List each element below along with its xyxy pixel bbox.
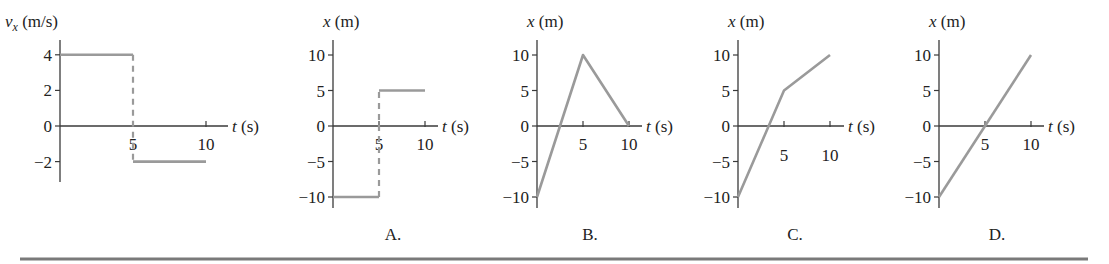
y-axis-label: x (m) [526,12,563,31]
panel-label-b: B. [582,225,598,244]
x-tick-label: 5 [780,146,789,165]
x-tick-label: 10 [621,135,638,154]
y-tick-label: 10 [512,46,529,65]
y-tick-label: 4 [44,46,53,65]
x-tick-label: 10 [198,135,215,154]
y-tick-label: 10 [914,46,931,65]
x-axis-label: t (s) [232,117,259,136]
x-tick-label: 10 [417,135,434,154]
y-tick-label: −10 [904,188,931,207]
y-tick-label: 5 [722,82,731,101]
y-axis-label: x (m) [727,12,764,31]
y-tick-label: 0 [722,117,731,136]
chart-panel-given: 420−2510vx (m/s)t (s) [5,12,259,182]
chart-panel-d: 1050−5−10510x (m)t (s)D. [904,12,1075,244]
x-tick-label: 10 [1023,135,1040,154]
x-tick-label: 10 [822,146,839,165]
y-axis-label: x (m) [322,12,359,31]
y-axis-label: x (m) [928,12,965,31]
y-tick-label: −5 [712,153,730,172]
y-tick-label: 0 [521,117,530,136]
y-tick-label: 2 [44,81,53,100]
chart-panel-c: 1050−5−10510x (m)t (s)C. [703,12,875,244]
y-tick-label: 0 [44,117,53,136]
y-tick-label: 10 [308,46,325,65]
panel-label-c: C. [787,225,803,244]
y-tick-label: 5 [317,82,326,101]
x-axis-label: t (s) [1048,117,1075,136]
chart-panel-b: 1050−5−10510x (m)t (s)B. [502,12,673,244]
y-tick-label: 0 [923,117,932,136]
panel-label-d: D. [989,225,1006,244]
panel-label-a: A. [385,225,402,244]
y-tick-label: −5 [913,153,931,172]
x-tick-label: 5 [981,135,990,154]
x-tick-label: 5 [579,135,588,154]
y-tick-label: 10 [713,46,730,65]
y-tick-label: −2 [34,153,52,172]
y-tick-label: 0 [317,117,326,136]
y-axis-label: vx (m/s) [5,12,58,34]
y-tick-label: −5 [307,153,325,172]
y-tick-label: −10 [502,188,529,207]
y-tick-label: 5 [923,82,932,101]
y-tick-label: −10 [703,188,730,207]
y-tick-label: −10 [298,188,325,207]
chart-panel-a: 1050−5−10510x (m)t (s)A. [298,12,469,244]
y-tick-label: −5 [511,153,529,172]
figure: 420−2510vx (m/s)t (s)1050−5−10510x (m)t … [0,0,1109,264]
x-axis-label: t (s) [646,117,673,136]
x-axis-label: t (s) [848,117,875,136]
x-axis-label: t (s) [442,117,469,136]
y-tick-label: 5 [521,82,530,101]
